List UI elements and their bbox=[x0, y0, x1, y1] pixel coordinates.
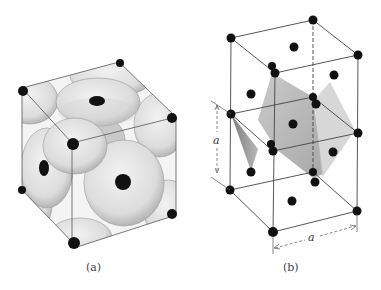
horizontal-dimension-label: a bbox=[308, 231, 315, 244]
lattice-point bbox=[267, 140, 275, 148]
lattice-point bbox=[290, 43, 299, 52]
figure-canvas: a a bbox=[0, 0, 381, 290]
lattice-point bbox=[247, 90, 256, 99]
lattice-point bbox=[268, 62, 276, 70]
lattice-point bbox=[269, 147, 278, 156]
corner-atom bbox=[68, 237, 80, 249]
horizontal-dimension bbox=[273, 214, 357, 254]
lattice-point bbox=[309, 168, 317, 176]
lattice-point bbox=[268, 227, 278, 237]
corner-atom bbox=[116, 59, 124, 67]
lattice-point bbox=[247, 168, 256, 177]
lattice-point bbox=[289, 120, 298, 129]
atom-center-dot bbox=[39, 160, 49, 176]
panel-a-caption: (a) bbox=[86, 261, 101, 274]
panel-b-caption: (b) bbox=[283, 261, 299, 274]
atom-center-dot bbox=[115, 174, 131, 190]
shaded-plane bbox=[231, 114, 258, 171]
lattice-point bbox=[227, 34, 236, 43]
panel-a-hard-sphere-cell bbox=[2, 53, 192, 258]
panel-b-lattice: a a bbox=[211, 16, 363, 255]
lattice-point bbox=[329, 148, 338, 157]
vertical-dimension-label: a bbox=[213, 134, 220, 147]
lattice-point bbox=[309, 16, 318, 25]
lattice-point bbox=[354, 51, 363, 60]
corner-atom bbox=[18, 86, 28, 96]
lattice-point bbox=[354, 129, 363, 138]
corner-atom bbox=[18, 186, 26, 194]
atom-center-dot bbox=[89, 96, 105, 106]
corner-atom bbox=[67, 138, 79, 150]
lattice-point bbox=[330, 71, 339, 80]
lattice-point bbox=[311, 178, 320, 187]
corner-atom bbox=[167, 209, 177, 219]
lattice-point bbox=[312, 100, 321, 109]
lattice-point bbox=[288, 197, 297, 206]
corner-atom bbox=[167, 113, 177, 123]
